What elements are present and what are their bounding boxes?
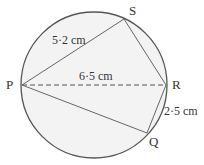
measure-pr: 6·5 cm (79, 69, 113, 83)
label-s: S (129, 3, 136, 18)
measure-ps: 5·2 cm (52, 33, 86, 47)
measure-rq: 2·5 cm (164, 104, 198, 118)
label-r: R (172, 77, 181, 92)
label-p: P (6, 77, 13, 92)
label-q: Q (149, 134, 159, 149)
circle-diagram: P S R Q 5·2 cm 6·5 cm 2·5 cm (0, 0, 204, 165)
